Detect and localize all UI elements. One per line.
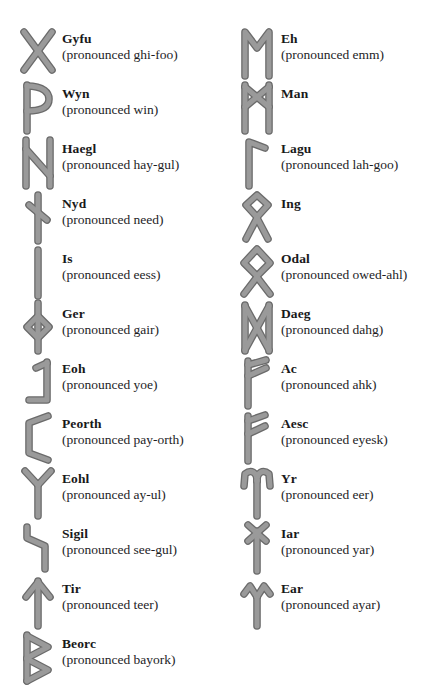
rune-labels: Nyd(pronounced need) <box>58 191 164 229</box>
rune-row: Odal(pronounced owed-ahl) <box>219 246 438 301</box>
rune-labels: Yr(pronounced eer) <box>277 466 374 504</box>
rune-row: Beorc(pronounced bayork) <box>0 631 219 686</box>
rune-name: Tir <box>62 581 158 597</box>
rune-pronunciation: (pronounced need) <box>62 212 164 228</box>
rune-labels: Iar(pronounced yar) <box>277 521 374 559</box>
rune-labels: Ear(pronounced ayar) <box>277 576 380 614</box>
rune-row: Wyn(pronounced win) <box>0 81 219 136</box>
rune-daeg-icon <box>237 301 277 353</box>
rune-labels: Ing <box>277 191 301 212</box>
rune-tir-icon <box>18 576 58 628</box>
rune-name: Ear <box>281 581 380 597</box>
rune-yr-icon <box>237 466 277 518</box>
rune-labels: Gyfu(pronounced ghi-foo) <box>58 26 178 64</box>
rune-iar-icon-svg <box>237 521 277 573</box>
rune-name: Sigil <box>62 526 177 542</box>
rune-name: Ing <box>281 196 301 212</box>
rune-row: Eh(pronounced emm) <box>219 26 438 81</box>
rune-name: Odal <box>281 251 407 267</box>
rune-ear-icon <box>237 576 277 628</box>
rune-peorth-icon <box>18 411 58 463</box>
rune-labels: Eoh(pronounced yoe) <box>58 356 158 394</box>
rune-daeg-icon-svg <box>237 301 277 353</box>
rune-labels: Tir(pronounced teer) <box>58 576 158 614</box>
rune-name: Nyd <box>62 196 164 212</box>
rune-pronunciation: (pronounced eer) <box>281 487 374 503</box>
rune-pronunciation: (pronounced bayork) <box>62 652 176 668</box>
rune-eohl-icon <box>18 466 58 518</box>
right-column: Eh(pronounced emm)ManLagu(pronounced lah… <box>219 0 438 700</box>
rune-iar-icon <box>237 521 277 573</box>
rune-lagu-icon-svg <box>237 136 277 188</box>
rune-name: Ger <box>62 306 159 322</box>
rune-row: Nyd(pronounced need) <box>0 191 219 246</box>
left-column: Gyfu(pronounced ghi-foo)Wyn(pronounced w… <box>0 0 219 700</box>
rune-row: Daeg(pronounced dahg) <box>219 301 438 356</box>
rune-pronunciation: (pronounced eyesk) <box>281 432 388 448</box>
rune-row: Man <box>219 81 438 136</box>
rune-wyn-icon-svg <box>18 81 58 133</box>
rune-name: Aesc <box>281 416 388 432</box>
rune-aesc-icon-svg <box>237 411 277 463</box>
rune-name: Ac <box>281 361 377 377</box>
rune-gyfu-icon-svg <box>18 26 58 78</box>
rune-haegl-icon-svg <box>18 136 58 188</box>
rune-ger-icon <box>18 301 58 353</box>
rune-name: Is <box>62 251 161 267</box>
rune-ger-icon-svg <box>18 301 58 353</box>
rune-beorc-icon-svg <box>18 631 58 683</box>
rune-sigil-icon <box>18 521 58 573</box>
rune-name: Wyn <box>62 86 158 102</box>
rune-row: Ear(pronounced ayar) <box>219 576 438 631</box>
rune-name: Eoh <box>62 361 158 377</box>
rune-row: Yr(pronounced eer) <box>219 466 438 521</box>
rune-pronunciation: (pronounced pay-orth) <box>62 432 184 448</box>
rune-name: Iar <box>281 526 374 542</box>
rune-nyd-icon <box>18 191 58 243</box>
rune-man-icon <box>237 81 277 133</box>
rune-nyd-icon-svg <box>18 191 58 243</box>
rune-pronunciation: (pronounced win) <box>62 102 158 118</box>
rune-name: Gyfu <box>62 31 178 47</box>
rune-row: Is(pronounced eess) <box>0 246 219 301</box>
rune-pronunciation: (pronounced teer) <box>62 597 158 613</box>
rune-row: Sigil(pronounced see-gul) <box>0 521 219 576</box>
rune-row: Haegl(pronounced hay-gul) <box>0 136 219 191</box>
rune-sigil-icon-svg <box>18 521 58 573</box>
rune-row: Aesc(pronounced eyesk) <box>219 411 438 466</box>
rune-labels: Beorc(pronounced bayork) <box>58 631 176 669</box>
rune-labels: Lagu(pronounced lah-goo) <box>277 136 398 174</box>
rune-aesc-icon <box>237 411 277 463</box>
rune-eoh-icon-svg <box>18 356 58 408</box>
rune-labels: Daeg(pronounced dahg) <box>277 301 383 339</box>
rune-pronunciation: (pronounced emm) <box>281 47 384 63</box>
rune-ing-icon <box>237 191 277 243</box>
rune-haegl-icon <box>18 136 58 188</box>
rune-name: Man <box>281 86 308 102</box>
rune-row: Ac(pronounced ahk) <box>219 356 438 411</box>
rune-man-icon-svg <box>237 81 277 133</box>
rune-name: Eohl <box>62 471 166 487</box>
rune-labels: Haegl(pronounced hay-gul) <box>58 136 179 174</box>
rune-row: Iar(pronounced yar) <box>219 521 438 576</box>
rune-pronunciation: (pronounced gair) <box>62 322 159 338</box>
rune-pronunciation: (pronounced yoe) <box>62 377 158 393</box>
rune-labels: Wyn(pronounced win) <box>58 81 158 119</box>
rune-pronunciation: (pronounced ahk) <box>281 377 377 393</box>
rune-wyn-icon <box>18 81 58 133</box>
rune-row: Peorth(pronounced pay-orth) <box>0 411 219 466</box>
rune-name: Peorth <box>62 416 184 432</box>
rune-labels: Aesc(pronounced eyesk) <box>277 411 388 449</box>
rune-pronunciation: (pronounced ghi-foo) <box>62 47 178 63</box>
rune-ing-icon-svg <box>237 191 277 243</box>
rune-is-icon <box>18 246 58 298</box>
rune-eoh-icon <box>18 356 58 408</box>
rune-lagu-icon <box>237 136 277 188</box>
rune-labels: Is(pronounced eess) <box>58 246 161 284</box>
rune-odal-icon-svg <box>237 246 277 298</box>
rune-gyfu-icon <box>18 26 58 78</box>
rune-pronunciation: (pronounced see-gul) <box>62 542 177 558</box>
rune-pronunciation: (pronounced owed-ahl) <box>281 267 407 283</box>
rune-labels: Ac(pronounced ahk) <box>277 356 377 394</box>
rune-beorc-icon <box>18 631 58 683</box>
